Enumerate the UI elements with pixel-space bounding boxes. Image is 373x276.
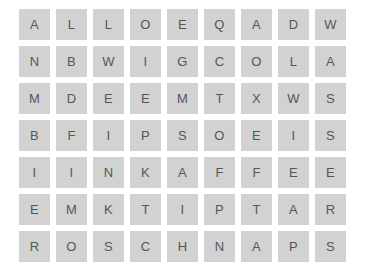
- grid-cell-letter: P: [215, 203, 224, 216]
- grid-cell[interactable]: B: [19, 120, 50, 151]
- grid-cell[interactable]: E: [315, 157, 346, 188]
- grid-cell-letter: P: [289, 240, 298, 253]
- grid-cell[interactable]: M: [167, 83, 198, 114]
- grid-cell[interactable]: T: [204, 83, 235, 114]
- grid-cell[interactable]: I: [130, 46, 161, 77]
- grid-cell-letter: O: [214, 129, 224, 142]
- grid-cell-letter: K: [141, 166, 150, 179]
- grid-cell-letter: C: [141, 240, 151, 253]
- grid-cell[interactable]: M: [56, 194, 87, 225]
- grid-cell[interactable]: O: [130, 9, 161, 40]
- grid-cell[interactable]: P: [130, 120, 161, 151]
- grid-cell-letter: E: [326, 166, 335, 179]
- grid-cell-letter: W: [102, 55, 114, 68]
- grid-cell-letter: E: [141, 92, 150, 105]
- grid-cell[interactable]: A: [19, 9, 50, 40]
- grid-cell[interactable]: R: [315, 194, 346, 225]
- grid-cell[interactable]: I: [167, 194, 198, 225]
- grid-cell[interactable]: K: [93, 194, 124, 225]
- grid-cell[interactable]: F: [204, 157, 235, 188]
- grid-cell-letter: O: [251, 55, 261, 68]
- grid-cell[interactable]: A: [278, 194, 309, 225]
- grid-cell[interactable]: I: [56, 157, 87, 188]
- grid-cell[interactable]: E: [278, 157, 309, 188]
- grid-cell-letter: H: [178, 240, 188, 253]
- grid-cell[interactable]: W: [315, 9, 346, 40]
- grid-cell[interactable]: W: [278, 83, 309, 114]
- grid-cell[interactable]: N: [19, 46, 50, 77]
- grid-cell[interactable]: L: [278, 46, 309, 77]
- grid-cell[interactable]: I: [93, 120, 124, 151]
- grid-cell-letter: A: [30, 18, 39, 31]
- grid-cell[interactable]: R: [19, 231, 50, 262]
- grid-cell[interactable]: S: [315, 83, 346, 114]
- grid-cell[interactable]: A: [241, 9, 272, 40]
- grid-cell[interactable]: T: [130, 194, 161, 225]
- word-search-grid: ALLOEQADWNBWIGCOLAMDEEMTXWSBFIPSOEISIINK…: [19, 9, 346, 262]
- grid-cell-letter: S: [104, 240, 113, 253]
- grid-cell[interactable]: E: [167, 9, 198, 40]
- grid-cell-letter: D: [289, 18, 299, 31]
- grid-cell[interactable]: O: [241, 46, 272, 77]
- grid-cell[interactable]: S: [93, 231, 124, 262]
- grid-cell[interactable]: B: [56, 46, 87, 77]
- grid-cell[interactable]: A: [241, 231, 272, 262]
- grid-cell[interactable]: F: [241, 157, 272, 188]
- grid-cell[interactable]: E: [130, 83, 161, 114]
- grid-cell-letter: N: [30, 55, 40, 68]
- grid-cell-letter: S: [178, 129, 187, 142]
- grid-cell[interactable]: Q: [204, 9, 235, 40]
- grid-cell[interactable]: M: [19, 83, 50, 114]
- grid-cell-letter: F: [252, 166, 260, 179]
- grid-cell[interactable]: G: [167, 46, 198, 77]
- grid-cell-letter: F: [67, 129, 75, 142]
- grid-cell[interactable]: K: [130, 157, 161, 188]
- grid-cell[interactable]: I: [19, 157, 50, 188]
- grid-cell[interactable]: N: [204, 231, 235, 262]
- grid-cell-letter: K: [104, 203, 113, 216]
- grid-cell[interactable]: W: [93, 46, 124, 77]
- grid-cell-letter: Q: [214, 18, 224, 31]
- grid-cell[interactable]: O: [204, 120, 235, 151]
- grid-cell[interactable]: S: [315, 120, 346, 151]
- grid-cell-letter: R: [326, 203, 336, 216]
- grid-cell[interactable]: T: [241, 194, 272, 225]
- grid-cell-letter: L: [68, 18, 75, 31]
- grid-cell[interactable]: D: [56, 83, 87, 114]
- grid-cell[interactable]: E: [93, 83, 124, 114]
- grid-cell[interactable]: C: [130, 231, 161, 262]
- grid-cell-letter: E: [104, 92, 113, 105]
- grid-cell-letter: A: [252, 240, 261, 253]
- grid-cell[interactable]: N: [93, 157, 124, 188]
- grid-cell-letter: D: [67, 92, 77, 105]
- grid-cell[interactable]: X: [241, 83, 272, 114]
- grid-cell[interactable]: P: [278, 231, 309, 262]
- grid-cell[interactable]: C: [204, 46, 235, 77]
- grid-cell[interactable]: O: [56, 231, 87, 262]
- grid-cell-letter: E: [178, 18, 187, 31]
- grid-cell-letter: T: [141, 203, 149, 216]
- grid-cell[interactable]: E: [241, 120, 272, 151]
- grid-cell[interactable]: E: [19, 194, 50, 225]
- grid-cell-letter: I: [181, 203, 185, 216]
- grid-cell[interactable]: D: [278, 9, 309, 40]
- grid-cell[interactable]: H: [167, 231, 198, 262]
- grid-cell-letter: C: [215, 55, 225, 68]
- grid-cell[interactable]: P: [204, 194, 235, 225]
- grid-cell[interactable]: I: [278, 120, 309, 151]
- grid-cell[interactable]: A: [315, 46, 346, 77]
- grid-cell-letter: I: [144, 55, 148, 68]
- grid-cell[interactable]: F: [56, 120, 87, 151]
- grid-cell[interactable]: S: [315, 231, 346, 262]
- grid-cell-letter: I: [292, 129, 296, 142]
- grid-cell[interactable]: L: [56, 9, 87, 40]
- grid-cell-letter: T: [252, 203, 260, 216]
- grid-cell-letter: R: [30, 240, 40, 253]
- grid-cell-letter: O: [140, 18, 150, 31]
- grid-cell-letter: W: [287, 92, 299, 105]
- grid-cell[interactable]: L: [93, 9, 124, 40]
- grid-cell-letter: E: [30, 203, 39, 216]
- grid-cell[interactable]: A: [167, 157, 198, 188]
- grid-cell[interactable]: S: [167, 120, 198, 151]
- grid-cell-letter: N: [215, 240, 225, 253]
